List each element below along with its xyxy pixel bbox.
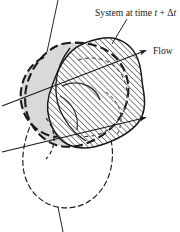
leader-line-top: [47, 0, 58, 52]
figure-canvas: System at time t + Δt Flow: [0, 0, 180, 232]
system-time-label: System at time t + Δt: [83, 7, 180, 18]
leader-line-bottom: [58, 207, 63, 232]
flow-label: Flow: [153, 45, 173, 56]
